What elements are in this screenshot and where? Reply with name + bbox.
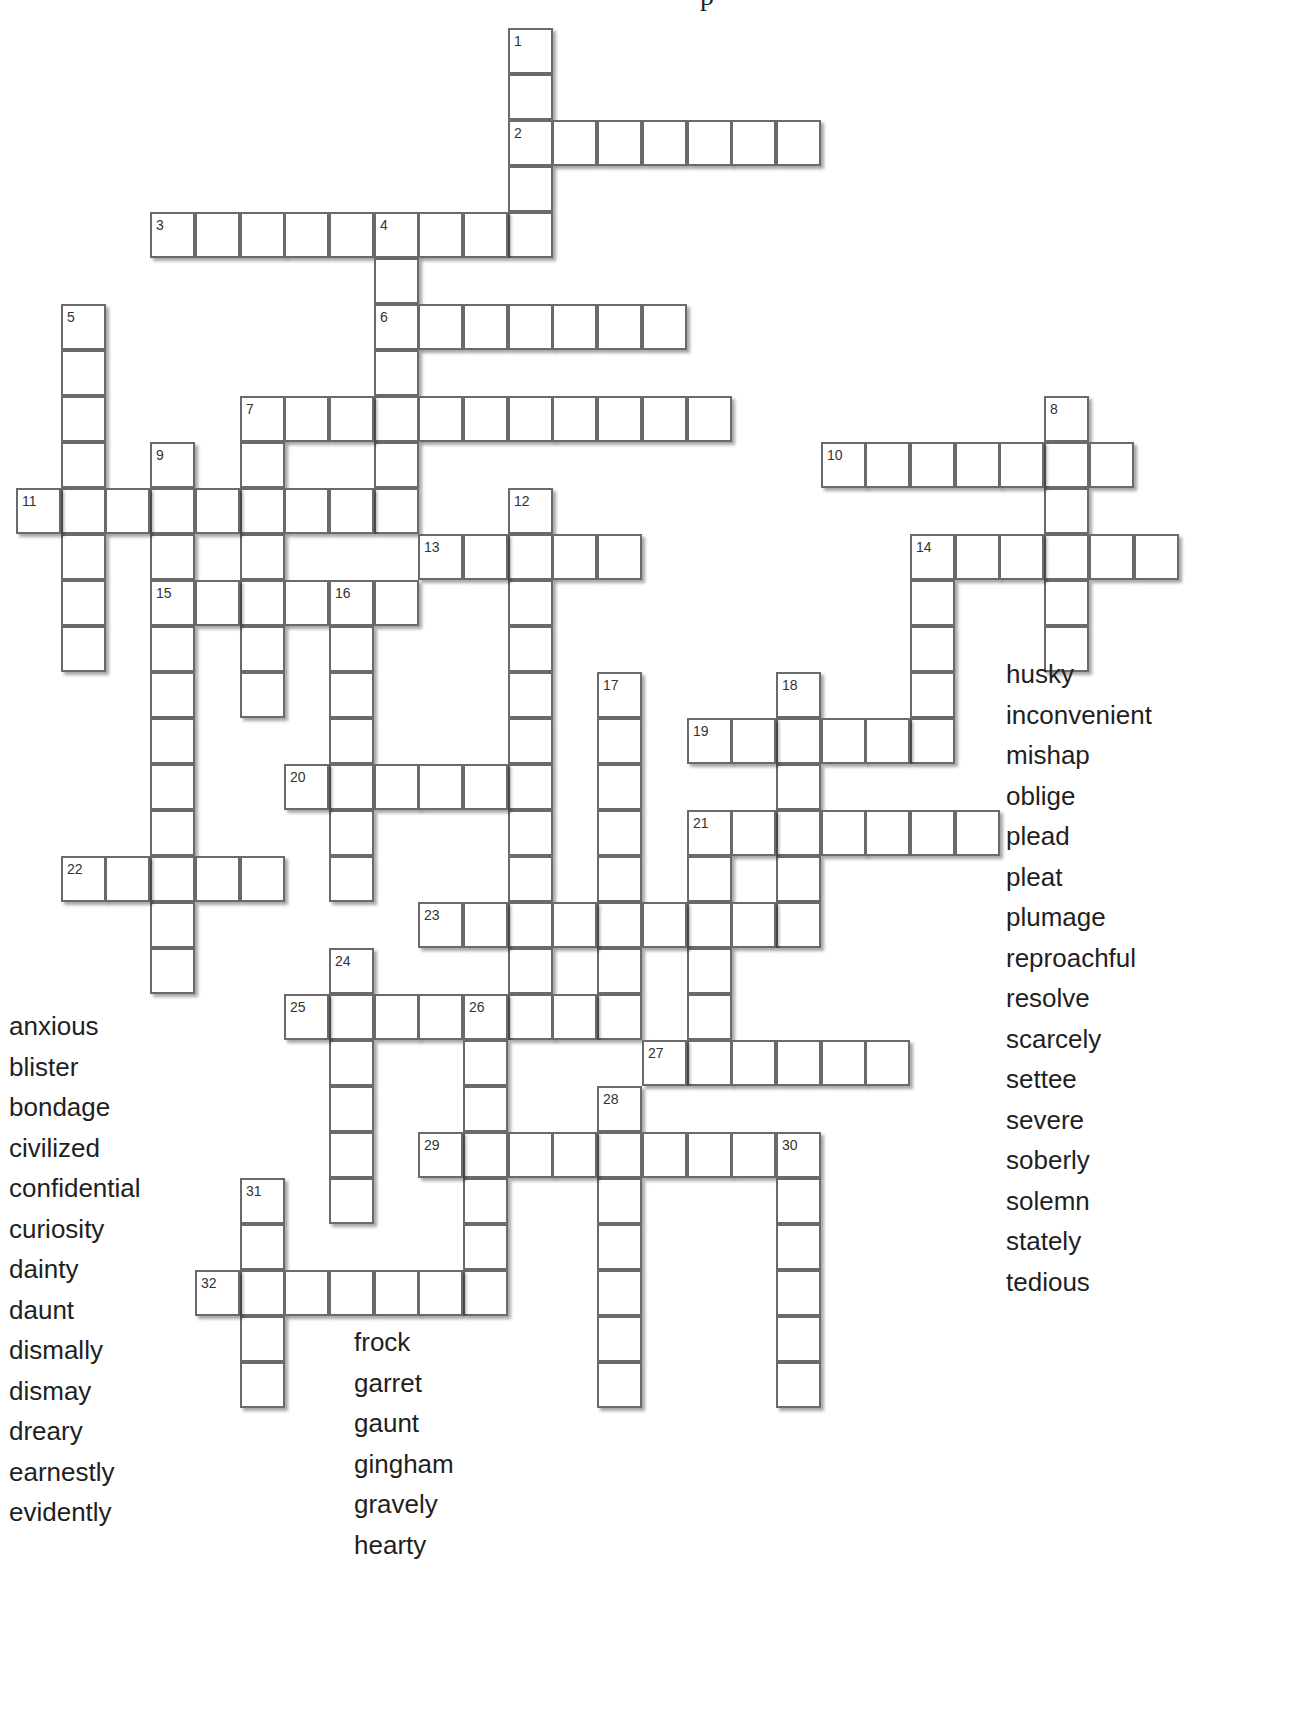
grid-cell[interactable]: [508, 580, 553, 626]
grid-cell[interactable]: [329, 764, 374, 810]
grid-cell[interactable]: [240, 488, 285, 534]
grid-cell[interactable]: [597, 948, 642, 994]
grid-cell[interactable]: [284, 212, 329, 258]
grid-cell[interactable]: 19: [687, 718, 732, 764]
grid-cell[interactable]: [61, 626, 106, 672]
grid-cell[interactable]: [642, 120, 687, 166]
grid-cell[interactable]: [508, 856, 553, 902]
grid-cell[interactable]: 16: [329, 580, 374, 626]
grid-cell[interactable]: [463, 1132, 508, 1178]
grid-cell[interactable]: [731, 120, 776, 166]
grid-cell[interactable]: [150, 488, 195, 534]
grid-cell[interactable]: [195, 856, 240, 902]
grid-cell[interactable]: [508, 74, 553, 120]
grid-cell[interactable]: [418, 1270, 463, 1316]
grid-cell[interactable]: 28: [597, 1086, 642, 1132]
grid-cell[interactable]: [463, 764, 508, 810]
grid-cell[interactable]: [910, 672, 955, 718]
grid-cell[interactable]: [597, 1178, 642, 1224]
grid-cell[interactable]: 5: [61, 304, 106, 350]
grid-cell[interactable]: [240, 626, 285, 672]
grid-cell[interactable]: [999, 534, 1044, 580]
grid-cell[interactable]: [240, 534, 285, 580]
grid-cell[interactable]: [508, 718, 553, 764]
grid-cell[interactable]: [552, 994, 597, 1040]
grid-cell[interactable]: [240, 212, 285, 258]
grid-cell[interactable]: 17: [597, 672, 642, 718]
grid-cell[interactable]: 8: [1044, 396, 1089, 442]
grid-cell[interactable]: [776, 810, 821, 856]
grid-cell[interactable]: 30: [776, 1132, 821, 1178]
grid-cell[interactable]: [508, 672, 553, 718]
grid-cell[interactable]: [284, 488, 329, 534]
grid-cell[interactable]: [687, 120, 732, 166]
grid-cell[interactable]: [61, 534, 106, 580]
grid-cell[interactable]: 15: [150, 580, 195, 626]
grid-cell[interactable]: 27: [642, 1040, 687, 1086]
grid-cell[interactable]: 21: [687, 810, 732, 856]
grid-cell[interactable]: [329, 856, 374, 902]
grid-cell[interactable]: [910, 626, 955, 672]
grid-cell[interactable]: [508, 304, 553, 350]
grid-cell[interactable]: [150, 810, 195, 856]
grid-cell[interactable]: [597, 1270, 642, 1316]
grid-cell[interactable]: [776, 764, 821, 810]
grid-cell[interactable]: [642, 1132, 687, 1178]
grid-cell[interactable]: [329, 1132, 374, 1178]
grid-cell[interactable]: [508, 810, 553, 856]
grid-cell[interactable]: 12: [508, 488, 553, 534]
grid-cell[interactable]: [910, 718, 955, 764]
grid-cell[interactable]: 13: [418, 534, 463, 580]
grid-cell[interactable]: [597, 304, 642, 350]
grid-cell[interactable]: [374, 764, 419, 810]
grid-cell[interactable]: [999, 442, 1044, 488]
grid-cell[interactable]: [418, 994, 463, 1040]
grid-cell[interactable]: [329, 1040, 374, 1086]
grid-cell[interactable]: [1044, 580, 1089, 626]
grid-cell[interactable]: [597, 396, 642, 442]
grid-cell[interactable]: [597, 1316, 642, 1362]
grid-cell[interactable]: [597, 120, 642, 166]
grid-cell[interactable]: 25: [284, 994, 329, 1040]
grid-cell[interactable]: [240, 1270, 285, 1316]
grid-cell[interactable]: [374, 1270, 419, 1316]
grid-cell[interactable]: [552, 902, 597, 948]
grid-cell[interactable]: [150, 718, 195, 764]
grid-cell[interactable]: [552, 534, 597, 580]
grid-cell[interactable]: [463, 902, 508, 948]
grid-cell[interactable]: [463, 1178, 508, 1224]
grid-cell[interactable]: [865, 810, 910, 856]
grid-cell[interactable]: [508, 396, 553, 442]
grid-cell[interactable]: 10: [821, 442, 866, 488]
grid-cell[interactable]: [61, 396, 106, 442]
grid-cell[interactable]: [150, 672, 195, 718]
grid-cell[interactable]: [552, 1132, 597, 1178]
grid-cell[interactable]: [687, 902, 732, 948]
grid-cell[interactable]: [865, 1040, 910, 1086]
grid-cell[interactable]: [508, 166, 553, 212]
grid-cell[interactable]: [329, 672, 374, 718]
grid-cell[interactable]: [240, 856, 285, 902]
grid-cell[interactable]: [61, 488, 106, 534]
grid-cell[interactable]: [821, 718, 866, 764]
grid-cell[interactable]: [240, 1316, 285, 1362]
grid-cell[interactable]: [597, 1132, 642, 1178]
grid-cell[interactable]: 32: [195, 1270, 240, 1316]
grid-cell[interactable]: [508, 948, 553, 994]
grid-cell[interactable]: [687, 994, 732, 1040]
grid-cell[interactable]: [329, 1086, 374, 1132]
grid-cell[interactable]: [150, 764, 195, 810]
grid-cell[interactable]: [463, 396, 508, 442]
grid-cell[interactable]: [910, 580, 955, 626]
grid-cell[interactable]: [687, 948, 732, 994]
grid-cell[interactable]: [597, 856, 642, 902]
grid-cell[interactable]: [284, 396, 329, 442]
grid-cell[interactable]: [597, 764, 642, 810]
grid-cell[interactable]: [195, 580, 240, 626]
grid-cell[interactable]: [597, 718, 642, 764]
grid-cell[interactable]: [418, 764, 463, 810]
grid-cell[interactable]: [61, 580, 106, 626]
grid-cell[interactable]: [329, 1178, 374, 1224]
grid-cell[interactable]: [776, 1362, 821, 1408]
grid-cell[interactable]: [195, 488, 240, 534]
